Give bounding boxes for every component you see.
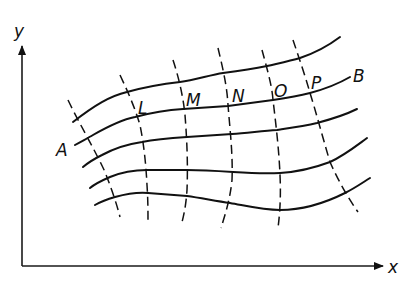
solid-curve-4 <box>90 138 367 188</box>
solid-curve-1 <box>73 37 340 122</box>
dashed-curve-M <box>173 60 187 226</box>
label-A: A <box>55 140 68 160</box>
curvilinear-grid-diagram: y x A B L M N O P <box>0 0 411 282</box>
label-M: M <box>186 90 201 110</box>
y-axis-label: y <box>13 21 25 41</box>
label-P: P <box>311 73 322 93</box>
label-O: O <box>274 81 287 101</box>
label-N: N <box>232 86 245 106</box>
solid-curve-5 <box>95 178 370 210</box>
axes: y x <box>13 21 399 277</box>
labels: A B L M N O P <box>55 66 365 160</box>
label-B: B <box>353 66 365 86</box>
solid-curve-3 <box>83 109 357 167</box>
label-L: L <box>138 98 147 118</box>
x-axis-label: x <box>387 257 399 277</box>
dashed-curve-O <box>262 50 280 228</box>
